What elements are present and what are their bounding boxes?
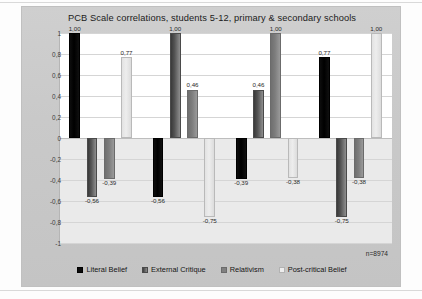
bar[interactable] <box>371 33 382 138</box>
bar-slot: -0,75 <box>336 33 347 243</box>
bar[interactable] <box>336 138 347 217</box>
bar-value-label: 1,00 <box>370 25 382 32</box>
bar-group: 0,77-0,75-0,381,00 <box>309 33 392 243</box>
bar-slot: 1,00 <box>270 33 281 243</box>
y-tick-label: -0,2 <box>35 156 61 163</box>
bar[interactable] <box>319 57 330 138</box>
y-tick-label: 0,6 <box>35 72 61 79</box>
bar-slot: -0,75 <box>204 33 215 243</box>
bar-slot: 1,00 <box>170 33 181 243</box>
bar[interactable] <box>288 138 299 178</box>
chart-panel: PCB Scale correlations, students 5-12, p… <box>21 6 401 287</box>
bar-slot: -0,56 <box>87 33 98 243</box>
y-tick-label: -0,6 <box>35 198 61 205</box>
legend-item[interactable]: Literal Belief <box>77 265 127 274</box>
bar[interactable] <box>253 90 264 138</box>
bar[interactable] <box>87 138 98 197</box>
bar-value-label: 0,77 <box>318 49 330 56</box>
bar-value-label: -0,38 <box>286 178 300 185</box>
y-tick-label: -0,8 <box>35 219 61 226</box>
legend-item[interactable]: External Critique <box>142 265 206 274</box>
chart-title: PCB Scale correlations, students 5-12, p… <box>22 13 402 23</box>
sample-size-annotation: n=8974 <box>366 250 388 257</box>
bar-value-label: 0,77 <box>120 49 132 56</box>
bar[interactable] <box>187 90 198 138</box>
y-tick-label: 0 <box>35 135 61 142</box>
bar-slot: 1,00 <box>371 33 382 243</box>
bar-slot: -0,38 <box>354 33 365 243</box>
bar[interactable] <box>236 138 247 179</box>
bar-series-container: 1,00-0,56-0,390,77-0,561,000,46-0,75-0,3… <box>59 33 392 243</box>
bar[interactable] <box>153 138 164 197</box>
bar-value-label: -0,56 <box>151 197 165 204</box>
legend-label: Literal Belief <box>86 265 127 274</box>
bar-group: -0,561,000,46-0,75 <box>142 33 225 243</box>
bar-value-label: -0,39 <box>234 179 248 186</box>
legend-swatch-icon <box>221 267 227 273</box>
legend-item[interactable]: Relativism <box>221 265 264 274</box>
chart-legend: Literal BeliefExternal CritiqueRelativis… <box>22 265 402 274</box>
bar-value-label: -0,75 <box>203 217 217 224</box>
bar-slot: -0,56 <box>153 33 164 243</box>
legend-swatch-icon <box>77 267 83 273</box>
bar-slot: 0,46 <box>187 33 198 243</box>
legend-swatch-icon <box>279 267 285 273</box>
gridline <box>59 243 392 244</box>
bar-slot: -0,39 <box>104 33 115 243</box>
bar-value-label: -0,75 <box>335 217 349 224</box>
bar[interactable] <box>270 33 281 138</box>
y-tick-label: 0,8 <box>35 51 61 58</box>
bar-group: -0,390,461,00-0,38 <box>226 33 309 243</box>
bar-slot: 0,77 <box>121 33 132 243</box>
page-rule-bottom <box>0 290 422 291</box>
bar[interactable] <box>204 138 215 217</box>
bar-value-label: 0,46 <box>186 81 198 88</box>
legend-label: Post-critical Belief <box>288 265 347 274</box>
bar-value-label: -0,38 <box>352 178 366 185</box>
bar[interactable] <box>170 33 181 138</box>
y-tick-label: 0,2 <box>35 114 61 121</box>
legend-swatch-icon <box>142 267 148 273</box>
bar-slot: 1,00 <box>69 33 80 243</box>
legend-label: External Critique <box>151 265 206 274</box>
bar-slot: 0,77 <box>319 33 330 243</box>
bar-value-label: -0,56 <box>85 197 99 204</box>
bar-value-label: 0,46 <box>252 81 264 88</box>
bar-group: 1,00-0,56-0,390,77 <box>59 33 142 243</box>
chart-figure: PCB Scale correlations, students 5-12, p… <box>0 0 422 299</box>
page-rule-top <box>0 2 422 3</box>
bar-slot: -0,38 <box>288 33 299 243</box>
legend-item[interactable]: Post-critical Belief <box>279 265 347 274</box>
bar-value-label: 1,00 <box>270 25 282 32</box>
y-tick-label: 0,4 <box>35 93 61 100</box>
bar[interactable] <box>354 138 365 178</box>
bar-slot: -0,39 <box>236 33 247 243</box>
legend-label: Relativism <box>230 265 264 274</box>
bar[interactable] <box>121 57 132 138</box>
plot-area: 1,00-0,56-0,390,77-0,561,000,46-0,75-0,3… <box>59 33 392 243</box>
bar[interactable] <box>69 33 80 138</box>
y-tick-label: -1 <box>35 240 61 247</box>
bar-value-label: 1,00 <box>169 25 181 32</box>
bar-slot: 0,46 <box>253 33 264 243</box>
bar-value-label: -0,39 <box>102 179 116 186</box>
y-tick-label: 1 <box>35 30 61 37</box>
y-tick-label: -0,4 <box>35 177 61 184</box>
bar-value-label: 1,00 <box>69 25 81 32</box>
bar[interactable] <box>104 138 115 179</box>
